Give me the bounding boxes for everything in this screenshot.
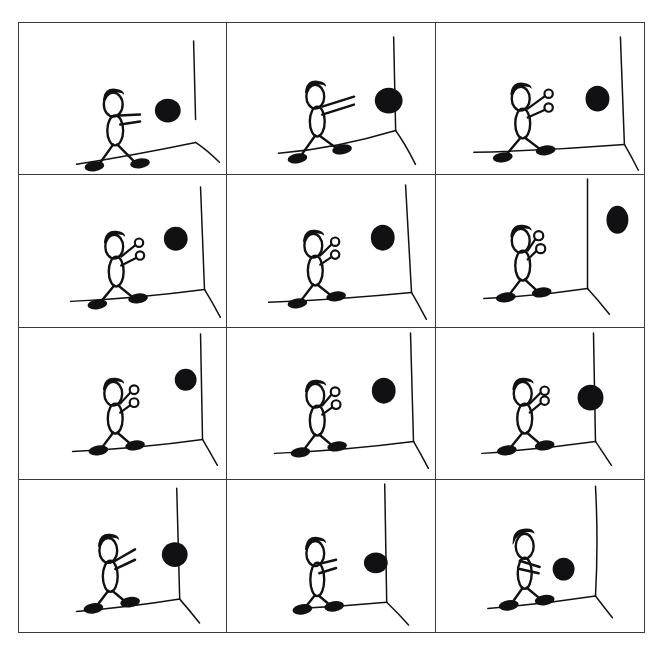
- ball: [164, 227, 188, 251]
- figure-hand-lower: [130, 398, 139, 407]
- storyboard-panel[interactable]: [227, 480, 435, 632]
- figure-shoe-front: [535, 144, 556, 157]
- ball: [162, 542, 188, 567]
- figure-arm-lower: [519, 569, 538, 573]
- floor-line-right: [396, 130, 416, 164]
- wall-corner-line: [394, 37, 396, 131]
- figure-hand-lower: [536, 244, 545, 253]
- panel-6-drawing: [436, 175, 644, 326]
- wall-corner-line: [201, 333, 203, 438]
- figure-hand-upper: [540, 386, 548, 394]
- figure-leg-front: [117, 144, 135, 162]
- storyboard-panel[interactable]: [436, 328, 644, 480]
- figure-hand-lower: [331, 251, 339, 259]
- ball: [375, 88, 403, 114]
- wall-corner-line: [411, 332, 414, 440]
- figure-shoe-back: [496, 444, 517, 457]
- storyboard-panel[interactable]: [19, 175, 227, 327]
- panel-1-drawing: [19, 23, 226, 174]
- panel-11-drawing: [227, 480, 434, 632]
- floor-line-right: [412, 293, 427, 320]
- floor-line-right: [624, 144, 638, 170]
- floor-line-right: [203, 439, 218, 465]
- figure-shoe-back: [287, 152, 308, 165]
- figure-shoe-back: [492, 151, 513, 164]
- figure-leg-back: [301, 135, 316, 156]
- ball: [364, 552, 388, 573]
- figure-shoe-front: [128, 292, 149, 305]
- ball: [585, 86, 609, 112]
- figure-arm-lower: [529, 402, 541, 412]
- figure-shoe-back: [83, 602, 104, 615]
- panel-grid: [18, 22, 645, 633]
- panel-7-drawing: [19, 328, 226, 479]
- ball: [577, 384, 603, 410]
- wall-corner-line: [595, 486, 596, 596]
- figure-arm-lower: [115, 560, 135, 569]
- storyboard-panel[interactable]: [19, 480, 227, 632]
- figure-torso: [103, 561, 118, 592]
- figure-torso: [107, 116, 123, 146]
- figure-shoe-back: [498, 599, 519, 612]
- ball: [606, 206, 628, 234]
- ball: [372, 377, 396, 403]
- floor-line-right: [595, 441, 611, 465]
- figure-shoe-front: [326, 290, 347, 303]
- storyboard-panel[interactable]: [436, 23, 644, 175]
- storyboard-panel[interactable]: [227, 328, 435, 480]
- figure-hand-lower: [136, 252, 144, 260]
- floor-line-right: [205, 290, 221, 318]
- storyboard-panel[interactable]: [227, 23, 435, 175]
- wall-corner-line: [620, 37, 624, 144]
- storyboard-panel[interactable]: [19, 23, 227, 175]
- figure-hand-upper: [130, 385, 139, 394]
- figure-shoe-back: [292, 603, 313, 616]
- floor-line-right: [387, 602, 409, 625]
- figure-torso: [310, 107, 325, 137]
- panel-12-drawing: [436, 480, 644, 632]
- wall-corner-line: [385, 484, 387, 602]
- figure-shoe-back: [88, 444, 109, 457]
- figure-shoe-back: [495, 291, 516, 304]
- panel-8-drawing: [227, 328, 434, 479]
- figure-hand-lower: [540, 396, 548, 404]
- panel-5-drawing: [227, 175, 434, 326]
- figure-torso: [108, 403, 123, 433]
- figure-torso: [310, 405, 325, 435]
- floor-line-right: [595, 596, 612, 618]
- figure-shoe-back: [290, 446, 311, 459]
- wall-corner-line: [194, 41, 196, 120]
- figure-head: [515, 534, 533, 559]
- ball: [371, 225, 395, 251]
- ball: [155, 99, 181, 123]
- panel-10-drawing: [19, 480, 226, 632]
- figure-hand-upper: [534, 231, 543, 240]
- floor-line-right: [414, 441, 429, 468]
- figure-hand-lower: [544, 103, 552, 111]
- panel-3-drawing: [436, 23, 644, 174]
- figure-torso: [308, 256, 323, 286]
- ball: [552, 557, 574, 580]
- storyboard-panel[interactable]: [436, 175, 644, 327]
- figure-torso: [517, 403, 532, 433]
- figure-torso: [109, 257, 124, 287]
- floor-line-right: [196, 142, 220, 162]
- storyboard-sheet: [0, 0, 659, 651]
- figure-hand-lower: [332, 400, 341, 409]
- panel-4-drawing: [19, 175, 226, 326]
- storyboard-panel[interactable]: [19, 328, 227, 480]
- storyboard-panel[interactable]: [227, 175, 435, 327]
- figure-arm-lower: [121, 258, 137, 266]
- ball: [175, 368, 197, 390]
- wall-corner-line: [201, 187, 205, 289]
- wall-corner-line: [406, 185, 412, 292]
- figure-torso: [515, 251, 530, 281]
- storyboard-panel[interactable]: [436, 480, 644, 632]
- panel-9-drawing: [436, 328, 644, 479]
- figure-hand-upper: [331, 238, 339, 246]
- figure-shoe-back: [287, 297, 308, 310]
- figure-arm-lower: [120, 122, 140, 125]
- panel-2-drawing: [227, 23, 434, 174]
- figure-arm-upper: [119, 115, 140, 116]
- figure-torso: [311, 563, 325, 596]
